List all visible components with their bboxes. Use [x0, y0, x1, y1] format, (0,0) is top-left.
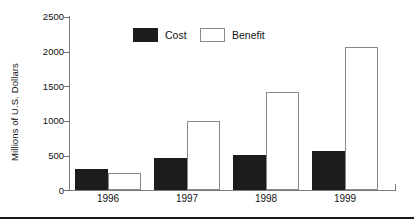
bar-benefit-1996 — [108, 173, 141, 190]
legend-swatch-benefit-icon — [200, 28, 225, 42]
y-tick-label-2000: 2000 — [30, 47, 64, 57]
bar-cost-1998 — [233, 155, 266, 190]
legend-entry-benefit: Benefit — [200, 26, 265, 44]
bar-cost-1996 — [75, 169, 108, 190]
bar-cost-1997 — [154, 158, 187, 190]
y-tick-label-0: 0 — [30, 186, 64, 196]
x-tick-label-1998: 1998 — [231, 193, 301, 205]
bar-cost-1999 — [312, 151, 345, 190]
y-axis-tick-labels: 2500 2000 1500 1000 500 0 — [28, 0, 64, 224]
legend-swatch-cost-icon — [133, 28, 158, 42]
bar-benefit-1997 — [187, 121, 220, 190]
x-axis-line — [69, 190, 396, 191]
y-axis-title: Millions of U.S. Dollars — [6, 42, 146, 182]
x-tick-label-1999: 1999 — [310, 193, 380, 205]
x-axis-end-tick — [395, 184, 396, 191]
legend-label-cost: Cost — [165, 29, 187, 41]
x-tick-label-1997: 1997 — [152, 193, 222, 205]
y-axis-line — [69, 16, 70, 191]
bottom-divider — [0, 217, 414, 219]
legend-entry-cost: Cost — [133, 26, 187, 44]
y-tick-label-2500: 2500 — [30, 12, 64, 22]
x-tick-label-1996: 1996 — [73, 193, 143, 205]
bar-benefit-1999 — [345, 47, 378, 190]
y-tick-label-1500: 1500 — [30, 82, 64, 92]
y-tick-label-1000: 1000 — [30, 116, 64, 126]
bar-chart-figure: Millions of U.S. Dollars 2500 2000 1500 … — [0, 0, 414, 224]
y-tick-label-500: 500 — [30, 151, 64, 161]
legend-label-benefit: Benefit — [232, 29, 265, 41]
bar-benefit-1998 — [266, 92, 299, 190]
